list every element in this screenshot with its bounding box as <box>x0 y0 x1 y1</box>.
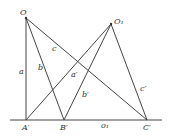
label-b: b <box>38 63 43 72</box>
label-a-prime-point: A′ <box>21 123 30 132</box>
label-o1-line: o₁ <box>101 121 109 130</box>
point-o <box>25 17 27 19</box>
label-c: c <box>52 44 57 53</box>
label-o: O <box>20 8 27 17</box>
label-a-prime: a′ <box>71 70 78 79</box>
segment-b <box>26 18 64 120</box>
segment-c <box>26 18 147 120</box>
diagram-canvas: O O₁ A′ B′ C′ o₁ a b c a′ b′ c′ <box>0 0 171 137</box>
label-o1: O₁ <box>114 17 124 26</box>
segment-a-prime <box>26 24 111 120</box>
label-a: a <box>19 67 24 76</box>
label-b-prime: b′ <box>82 90 89 99</box>
label-c-prime-point: C′ <box>143 123 151 132</box>
segment-c-prime <box>111 24 147 120</box>
label-b-prime-point: B′ <box>59 123 68 132</box>
geometry-figure: O O₁ A′ B′ C′ o₁ a b c a′ b′ c′ <box>0 0 171 137</box>
label-c-prime: c′ <box>140 84 146 93</box>
point-o1 <box>110 23 112 25</box>
